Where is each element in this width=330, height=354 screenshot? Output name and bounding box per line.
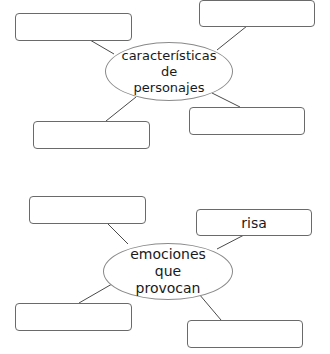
center-label-line-1: características	[122, 48, 217, 64]
connector-emociones-bottom-left	[79, 284, 112, 303]
center-label-line-1: emociones	[130, 246, 206, 263]
answer-box-personajes-bottom-left[interactable]	[33, 121, 150, 149]
answer-box-personajes-bottom-right[interactable]	[189, 107, 305, 135]
center-ellipse-personajes: características de personajes	[105, 42, 233, 101]
answer-box-personajes-top-right[interactable]	[199, 0, 315, 27]
connector-personajes-bottom-left	[106, 97, 136, 121]
center-label-line-3: provocan	[136, 280, 201, 297]
connector-emociones-top-left	[107, 223, 128, 244]
connector-personajes-top-right	[217, 26, 247, 50]
center-label-line-2: de	[161, 64, 177, 80]
answer-box-emociones-top-left[interactable]	[29, 196, 146, 224]
box-text: risa	[241, 215, 267, 231]
connector-emociones-bottom-right	[199, 294, 221, 320]
center-label-line-3: personajes	[134, 80, 205, 96]
connector-emociones-top-right	[217, 235, 244, 249]
center-label-line-2: que	[155, 263, 181, 280]
center-ellipse-emociones: emociones que provocan	[103, 243, 233, 300]
answer-box-emociones-top-right[interactable]: risa	[196, 209, 312, 236]
answer-box-emociones-bottom-right[interactable]	[187, 320, 303, 348]
connector-personajes-bottom-right	[212, 93, 240, 107]
answer-box-personajes-top-left[interactable]	[15, 13, 132, 41]
connector-personajes-top-left	[90, 40, 114, 54]
answer-box-emociones-bottom-left[interactable]	[15, 303, 132, 331]
